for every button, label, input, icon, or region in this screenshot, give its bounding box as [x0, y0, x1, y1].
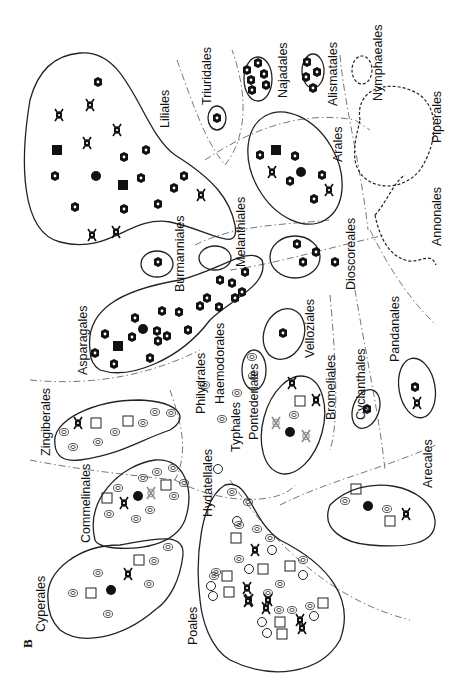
melanthiales-outline	[199, 246, 231, 270]
dashed-outlines	[352, 56, 436, 265]
label-commelinales: Commelinales	[79, 464, 93, 543]
nymphaeales-outline	[352, 56, 372, 84]
commelinales-symbols	[102, 465, 189, 523]
label-asparagales: Asparagales	[76, 306, 90, 376]
label-hydatellales: Hydatellales	[201, 449, 215, 517]
label-philydrales: Philydrales	[194, 353, 208, 414]
label-piperales: Piperales	[430, 91, 444, 143]
panel-label: B	[20, 639, 35, 648]
label-cyclanthales: Cyclanthales	[354, 348, 368, 420]
label-pandanales: Pandanales	[388, 296, 402, 362]
arecales-symbols	[341, 484, 411, 526]
label-bromeliales: Bromeliales	[324, 355, 338, 420]
label-nymphaeales: Nymphaeales	[371, 25, 385, 101]
label-triuridales: Triuridales	[200, 47, 214, 105]
arecales-outline	[328, 485, 435, 546]
arales-outline	[229, 95, 362, 241]
label-poales: Poales	[186, 607, 200, 645]
label-cyperales: Cyperales	[34, 576, 48, 632]
commelinales-outline	[93, 460, 188, 548]
cyperales-symbols	[69, 544, 173, 618]
annonales-outline	[375, 175, 436, 265]
label-burmanniales: Burmanniales	[173, 216, 187, 292]
piperales-outline	[355, 86, 434, 186]
order-labels: B Cyperales Commelinales Poales Hydatell…	[20, 25, 444, 648]
label-arecales: Arecales	[421, 439, 435, 488]
label-zingiberales: Zingiberales	[39, 388, 53, 456]
label-liliales: Liliales	[158, 90, 172, 128]
label-melanthiales: Melanthiales	[234, 197, 248, 267]
poales-symbols	[207, 465, 329, 640]
label-dioscoreales: Dioscoreales	[344, 218, 358, 290]
label-pontederiales: Pontederiales	[247, 364, 261, 440]
zingiberales-outline	[55, 400, 180, 460]
label-alismatales: Alismatales	[326, 42, 340, 106]
label-typhales: Typhales	[229, 402, 243, 452]
order-cluster-diagram: B Cyperales Commelinales Poales Hydatell…	[0, 0, 466, 688]
label-annonales: Annonales	[430, 187, 444, 246]
label-velloziales: Velloziales	[303, 299, 317, 358]
label-arales: Arales	[331, 127, 345, 162]
label-haemodorales: Haemodorales	[213, 323, 227, 404]
label-najadales: Najadales	[276, 42, 290, 98]
